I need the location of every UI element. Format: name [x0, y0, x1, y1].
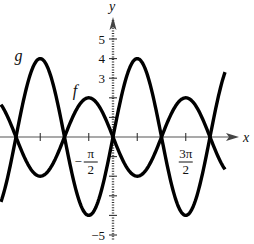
x-axis-label: x: [242, 130, 250, 145]
y-axis-label: y: [107, 0, 116, 14]
x-tick-label-numerator: 3π: [179, 146, 193, 161]
function-graph: x y 543−5π2−3π2 gf: [0, 0, 254, 244]
x-tick-label-sign: −: [74, 154, 81, 169]
curve-label-g: g: [15, 47, 23, 65]
y-tick-label: −5: [91, 228, 105, 243]
x-tick-label: π2−: [74, 146, 97, 177]
y-tick-label: 3: [99, 71, 106, 86]
x-tick-label-denominator: 2: [183, 162, 190, 177]
y-tick-label: 4: [99, 51, 106, 66]
x-tick-label-denominator: 2: [88, 162, 95, 177]
x-tick-label: 3π2: [179, 146, 193, 177]
curve-label-f: f: [73, 82, 80, 100]
y-tick-label: 5: [99, 32, 106, 47]
x-tick-label-numerator: π: [87, 146, 94, 161]
